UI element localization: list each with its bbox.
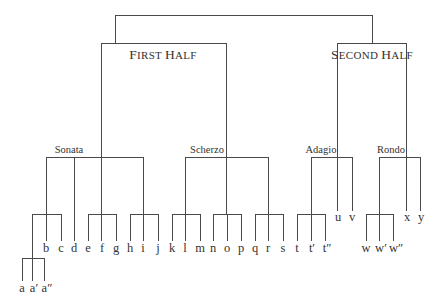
leaf-k: k: [169, 241, 176, 255]
rondo-label: Rondo: [377, 144, 405, 155]
leaf-e: e: [85, 241, 91, 255]
leaf-l: l: [183, 241, 187, 255]
leaf-row-lower: a a′ a″: [19, 281, 52, 295]
leaf-y: y: [418, 210, 425, 224]
sonata-label: Sonata: [55, 144, 84, 155]
leaf-m: m: [195, 241, 205, 255]
leaf-a: a: [19, 281, 25, 295]
leaf-c: c: [58, 241, 64, 255]
leaf-s: s: [281, 241, 286, 255]
leaf-w-prime: w′: [375, 241, 387, 255]
scherzo-node: Scherzo: [173, 144, 284, 241]
tree-canvas: FIRST HALF SECOND HALF Sonata Scherzo: [0, 0, 439, 302]
leaf-n: n: [210, 241, 217, 255]
adagio-label: Adagio: [306, 144, 337, 155]
leaf-a-prime: a′: [30, 281, 39, 295]
leaf-p: p: [238, 241, 244, 255]
leaf-a-double-prime: a″: [42, 281, 53, 295]
first-half-node: FIRST HALF: [102, 44, 227, 158]
leaf-w-double-prime: w″: [389, 241, 403, 255]
leaf-r: r: [266, 241, 271, 255]
leaf-w: w: [361, 241, 370, 255]
second-half-label: SECOND HALF: [331, 47, 413, 62]
sonata-node: Sonata: [23, 144, 159, 281]
leaf-g: g: [113, 241, 120, 255]
form-tree-diagram: FIRST HALF SECOND HALF Sonata Scherzo: [0, 0, 439, 302]
leaf-f: f: [100, 241, 105, 255]
leaf-i: i: [141, 241, 145, 255]
adagio-node: Adagio: [298, 144, 353, 241]
leaf-t-prime: t′: [309, 241, 315, 255]
rondo-node: Rondo: [367, 144, 421, 241]
scherzo-label: Scherzo: [190, 144, 224, 155]
leaf-row-main: b c d e f g h i j k l m n o p q r s t t′…: [43, 241, 403, 255]
leaf-t-double-prime: t″: [323, 241, 332, 255]
leaf-h: h: [127, 241, 134, 255]
leaf-j: j: [155, 241, 159, 255]
leaf-x: x: [404, 210, 411, 224]
leaf-v: v: [349, 210, 356, 224]
leaf-q: q: [252, 241, 259, 255]
second-half-node: SECOND HALF: [331, 44, 413, 158]
root-connector: [116, 16, 373, 44]
first-half-label: FIRST HALF: [129, 47, 196, 62]
leaf-o: o: [224, 241, 230, 255]
leaf-t: t: [295, 241, 299, 255]
leaf-d: d: [71, 241, 78, 255]
leaf-u: u: [335, 210, 342, 224]
leaf-b: b: [43, 241, 49, 255]
